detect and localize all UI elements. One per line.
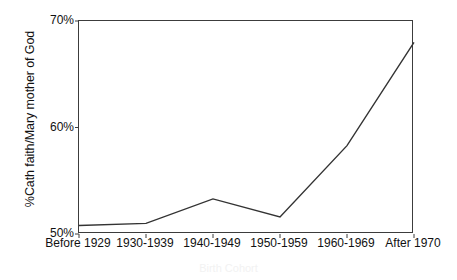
x-tick-label-after-1970: After 1970 [385,236,440,250]
x-tick-label-1960-1969: 1960-1969 [317,236,374,250]
line-chart-figure: %Cath faith/Mary mother of God 70% 60% 5… [0,0,457,280]
x-tick-label-1930-1939: 1930-1939 [116,236,173,250]
x-tick-label-before-1929: Before 1929 [45,236,110,250]
x-axis-title: Birth Cohort [0,262,457,274]
y-axis-ticks [75,21,79,234]
plot-area [78,20,413,233]
y-tick-label-60: 60% [34,120,74,134]
data-series-line [79,42,414,225]
plot-svg [79,21,414,234]
y-tick-label-70: 70% [34,13,74,27]
x-axis-tick-labels: Before 1929 1930-1939 1940-1949 1950-195… [0,236,457,254]
x-tick-label-1940-1949: 1940-1949 [183,236,240,250]
chart-screenshot: %Cath faith/Mary mother of God 70% 60% 5… [0,0,457,280]
x-tick-label-1950-1959: 1950-1959 [250,236,307,250]
